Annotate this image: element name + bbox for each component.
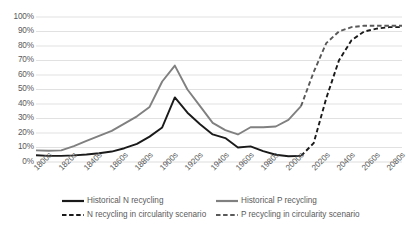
legend-label-historical-p: Historical P recycling [241, 196, 317, 206]
y-axis-tick-label: 100% [0, 13, 34, 21]
solid-line-icon [216, 196, 238, 206]
legend-label-scenario-p: P recycling in circularity scenario [241, 210, 360, 220]
y-axis-tick-label: 90% [0, 27, 34, 35]
gridlines [36, 17, 402, 162]
y-axis-tick-label: 10% [0, 143, 34, 151]
series-lines [36, 26, 402, 157]
legend-item-historical-p: Historical P recycling [216, 196, 317, 206]
legend-item-scenario-n: N recycling in circularity scenario [62, 210, 206, 220]
y-axis-tick-label: 50% [0, 85, 34, 93]
y-axis-tick-label: 40% [0, 100, 34, 108]
y-axis-tick-label: 60% [0, 71, 34, 79]
y-axis-tick-label: 80% [0, 42, 34, 50]
legend-item-historical-n: Historical N recycling [62, 196, 163, 206]
y-axis-tick-label: 70% [0, 56, 34, 64]
y-axis: 100%90%80%70%60%50%40%30%20%10%0% [0, 0, 34, 172]
y-axis-tick-label: 30% [0, 114, 34, 122]
legend-label-scenario-n: N recycling in circularity scenario [87, 210, 206, 220]
chart-legend: Historical N recycling Historical P recy… [0, 196, 406, 234]
legend-item-scenario-p: P recycling in circularity scenario [216, 210, 360, 220]
dashed-line-icon [62, 210, 84, 220]
series-line-3 [301, 26, 402, 106]
legend-label-historical-n: Historical N recycling [87, 196, 163, 206]
recycling-rate-line-chart: 100%90%80%70%60%50%40%30%20%10%0% 1800s1… [0, 0, 406, 234]
series-line-2 [301, 27, 402, 156]
solid-line-icon [62, 196, 84, 206]
series-line-1 [36, 66, 301, 151]
plot-area: 100%90%80%70%60%50%40%30%20%10%0% [0, 0, 406, 172]
y-axis-tick-label: 20% [0, 129, 34, 137]
dashed-line-icon [216, 210, 238, 220]
chart-canvas [0, 0, 406, 172]
